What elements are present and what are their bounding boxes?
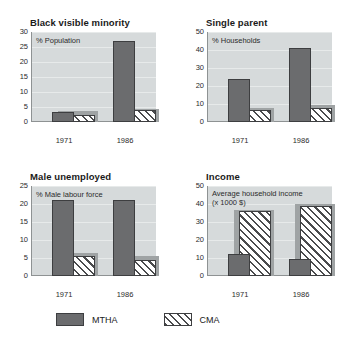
- chart-legend: MTHA CMA: [56, 313, 220, 326]
- y-tick: 0: [186, 272, 204, 280]
- x-tick: 1986: [105, 137, 145, 145]
- x-tick: 1971: [220, 137, 260, 145]
- bar-mtha-1986: [289, 48, 311, 122]
- gridline: [207, 50, 332, 51]
- y-tick: 50: [186, 182, 204, 190]
- bar-mtha-1971: [52, 200, 74, 276]
- y-tick: 30: [10, 28, 28, 36]
- plot-area: % Households: [207, 32, 332, 122]
- bar-mtha-1986: [113, 200, 135, 276]
- gridline: [31, 186, 156, 187]
- y-tick: 50: [186, 28, 204, 36]
- y-axis-line: [31, 186, 32, 276]
- chart-title: Black visible minority: [30, 17, 130, 28]
- y-axis-label: % Households: [212, 36, 260, 45]
- chart-grid: Black visible minority % Population 30 2…: [0, 0, 348, 342]
- bar-mtha-1971: [52, 112, 74, 123]
- y-axis-line: [207, 32, 208, 122]
- y-tick: 15: [10, 73, 28, 81]
- y-tick: 10: [10, 88, 28, 96]
- bar-mtha-1986: [289, 259, 311, 276]
- y-axis-label-line2: (x 1000 $): [212, 198, 246, 207]
- y-axis-line: [31, 32, 32, 122]
- plot-area: Average household income (x 1000 $): [207, 186, 332, 276]
- hatched-swatch-icon: [164, 313, 192, 326]
- x-tick: 1986: [281, 137, 321, 145]
- x-tick: 1986: [281, 291, 321, 299]
- gridline: [31, 32, 156, 33]
- gridline: [31, 204, 156, 205]
- y-tick: 40: [186, 200, 204, 208]
- solid-gray-swatch-icon: [56, 313, 84, 326]
- chart-title: Income: [206, 171, 240, 182]
- legend-item-mtha: MTHA: [56, 313, 118, 326]
- y-tick: 30: [186, 218, 204, 226]
- y-tick: 5: [10, 103, 28, 111]
- y-tick: 25: [10, 43, 28, 51]
- y-axis-label: % Male labour force: [36, 190, 103, 199]
- gridline: [207, 32, 332, 33]
- y-tick: 40: [186, 46, 204, 54]
- x-tick: 1971: [44, 291, 84, 299]
- legend-label-mtha: MTHA: [92, 315, 118, 325]
- y-tick: 15: [10, 218, 28, 226]
- y-tick: 0: [10, 272, 28, 280]
- gridline: [207, 86, 332, 87]
- plot-area: % Population: [31, 32, 156, 122]
- bar-mtha-1971: [228, 79, 250, 122]
- gridline: [31, 62, 156, 63]
- gridline: [31, 222, 156, 223]
- x-tick: 1971: [44, 137, 84, 145]
- y-tick: 0: [10, 118, 28, 126]
- y-axis-line: [207, 186, 208, 276]
- y-tick: 0: [186, 118, 204, 126]
- gridline: [207, 186, 332, 187]
- y-tick: 20: [10, 200, 28, 208]
- chart-title: Single parent: [206, 17, 267, 28]
- y-tick: 20: [186, 236, 204, 244]
- chart-panel-black-visible-minority: Black visible minority % Population 30 2…: [0, 0, 174, 171]
- gridline: [31, 107, 156, 108]
- gridline: [31, 77, 156, 78]
- bar-mtha-1971: [228, 254, 250, 277]
- y-axis-label-line1: Average household income: [212, 189, 303, 198]
- bar-mtha-1986: [113, 41, 135, 122]
- y-tick: 20: [186, 82, 204, 90]
- x-tick: 1971: [220, 291, 260, 299]
- y-tick: 30: [186, 64, 204, 72]
- y-tick: 10: [186, 254, 204, 262]
- legend-item-cma: CMA: [164, 313, 220, 326]
- plot-area: % Male labour force: [31, 186, 156, 276]
- y-tick: 25: [10, 182, 28, 190]
- y-tick: 20: [10, 58, 28, 66]
- y-axis-label: % Population: [36, 36, 80, 45]
- legend-label-cma: CMA: [200, 315, 220, 325]
- gridline: [31, 240, 156, 241]
- x-tick: 1986: [105, 291, 145, 299]
- y-tick: 5: [10, 254, 28, 262]
- y-tick: 10: [186, 100, 204, 108]
- gridline: [207, 68, 332, 69]
- gridline: [31, 47, 156, 48]
- y-tick: 10: [10, 236, 28, 244]
- gridline: [31, 92, 156, 93]
- chart-panel-single-parent: Single parent % Households 50 40 30 20 1…: [174, 0, 348, 171]
- chart-title: Male unemployed: [30, 171, 111, 182]
